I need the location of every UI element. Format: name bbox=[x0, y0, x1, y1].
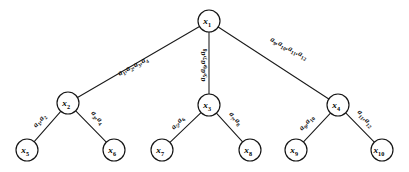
tree-node-x1[interactable]: x1 bbox=[198, 10, 220, 32]
tree-node-x5[interactable]: x5 bbox=[16, 139, 38, 161]
tree-node-x6[interactable]: x6 bbox=[103, 139, 125, 161]
tree-node-x4[interactable]: x4 bbox=[327, 94, 349, 116]
edge-label-x2-x5: a1,a2 bbox=[31, 111, 49, 129]
edge-label-x2-x6: a3,a4 bbox=[88, 109, 106, 127]
edge-label-x1-x4: a9,a10,a11,a12 bbox=[268, 35, 309, 63]
tree-node-x8[interactable]: x8 bbox=[239, 139, 261, 161]
tree-node-x10[interactable]: x10 bbox=[371, 139, 393, 161]
edges-layer bbox=[34, 27, 374, 143]
tree-node-x7[interactable]: x7 bbox=[151, 139, 173, 161]
tree-node-x2[interactable]: x2 bbox=[57, 92, 79, 114]
tree-diagram-figure: x1x2x3x4x5x6x7x8x9x10 a1,a2,a3,a4a5,a6,a… bbox=[0, 0, 409, 172]
tree-diagram-canvas: x1x2x3x4x5x6x7x8x9x10 a1,a2,a3,a4a5,a6,a… bbox=[0, 0, 409, 172]
edge-label-x3-x8: a7,a8 bbox=[226, 110, 244, 128]
edge-label-x4-x9: a9,a10 bbox=[297, 112, 317, 132]
nodes-layer: x1x2x3x4x5x6x7x8x9x10 bbox=[16, 10, 393, 161]
edge-label-x1-x3: a5,a6,a7,a8 bbox=[198, 48, 208, 81]
edge-label-x4-x10: a11,a12 bbox=[355, 108, 376, 130]
tree-node-x3[interactable]: x3 bbox=[198, 94, 220, 116]
tree-node-x9[interactable]: x9 bbox=[285, 139, 307, 161]
